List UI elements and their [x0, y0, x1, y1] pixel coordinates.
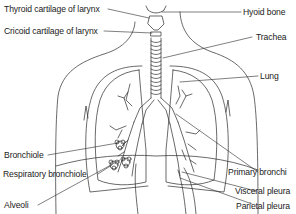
label-trachea: Trachea: [256, 32, 287, 42]
respiratory-system-diagram: Thyroid cartilage of larynx Cricoid cart…: [0, 0, 296, 214]
label-primary-bronchi: Primary bronchi: [228, 167, 287, 177]
cricoid-cartilage: [151, 32, 161, 36]
label-bronchiole: Bronchiole: [4, 150, 44, 160]
body-outline-left: [56, 22, 135, 214]
label-hyoid-bone: Hyoid bone: [243, 7, 285, 17]
primary-bronchus-right: [158, 98, 178, 124]
label-parietal-pleura: Parietal pleura: [236, 201, 290, 211]
bronchial-tree-right: [170, 86, 200, 176]
lung-right-outline: [166, 70, 217, 185]
label-alveoli: Alveoli: [4, 200, 29, 210]
lung-left-outline: [95, 70, 146, 185]
thyroid-cartilage: [148, 16, 164, 30]
trachea-rings: [151, 38, 161, 98]
pleural-cavity-right: [168, 66, 228, 192]
primary-bronchus-left: [134, 98, 154, 124]
parietal-pleura-line: [178, 170, 186, 214]
body-outline-right: [180, 12, 258, 214]
label-cricoid-cartilage: Cricoid cartilage of larynx: [4, 26, 98, 36]
label-lung: Lung: [260, 71, 279, 81]
label-respiratory-bronchiole: Respiratory bronchiole: [3, 169, 87, 179]
label-thyroid-cartilage: Thyroid cartilage of larynx: [4, 4, 100, 14]
label-visceral-pleura: Visceral pleura: [235, 186, 290, 196]
